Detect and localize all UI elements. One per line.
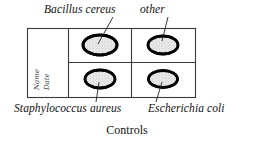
handwritten-name-field: Name (34, 69, 41, 90)
colony-bottom-right (149, 71, 178, 88)
control-plate-diagram: Bacillus cereus other Staphylococcus aur… (0, 0, 254, 141)
figure-caption: Controls (0, 124, 254, 136)
colony-top-left (83, 35, 117, 55)
handwritten-date-field: Date (44, 73, 51, 90)
colony-bottom-left (85, 70, 115, 88)
